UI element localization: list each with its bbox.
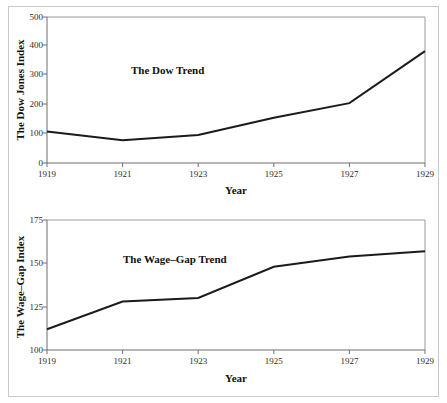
x-tick-label-1921-top: 1921 [114, 169, 132, 179]
wage-gap-trend-line [47, 251, 425, 329]
y-axis-title-bottom: The Wage–Gap Index [14, 235, 26, 338]
x-tick-label-1919-top: 1919 [38, 169, 57, 179]
dow-trend-panel: The Dow Jones Index 500 400 300 200 100 … [0, 0, 447, 202]
wage-gap-trend-panel: The Wage–Gap Index 175 150 125 100 [0, 201, 447, 403]
wage-gap-trend-chart: The Wage–Gap Index 175 150 125 100 [0, 201, 447, 403]
y-tick-label-150: 150 [30, 258, 44, 268]
x-tick-label-1923-bottom: 1923 [189, 356, 208, 366]
wage-gap-trend-annotation: The Wage–Gap Trend [123, 253, 227, 265]
y-tick-marks-top [43, 17, 47, 163]
x-tick-label-1925-top: 1925 [265, 169, 284, 179]
dow-trend-line [47, 51, 425, 140]
x-tick-marks-bottom [47, 350, 425, 354]
x-axis-title-bottom: Year [225, 372, 247, 384]
plot-box-bottom [47, 220, 425, 350]
x-tick-label-1927-top: 1927 [340, 169, 359, 179]
y-tick-label-0: 0 [39, 158, 44, 168]
y-tick-label-125: 125 [30, 302, 44, 312]
y-tick-label-500: 500 [30, 12, 44, 22]
dow-trend-annotation: The Dow Trend [131, 64, 204, 76]
x-axis-title-top: Year [225, 184, 247, 196]
x-tick-label-1919-bottom: 1919 [38, 356, 57, 366]
x-tick-label-1929-bottom: 1929 [416, 356, 435, 366]
y-tick-marks-bottom [43, 220, 47, 350]
y-axis-title-top: The Dow Jones Index [14, 39, 26, 141]
y-tick-label-200: 200 [30, 99, 44, 109]
y-tick-label-100: 100 [30, 128, 44, 138]
x-tick-label-1921-bottom: 1921 [114, 356, 132, 366]
y-tick-label-300: 300 [30, 69, 44, 79]
dow-trend-chart: The Dow Jones Index 500 400 300 200 100 … [0, 0, 447, 202]
x-tick-label-1925-bottom: 1925 [265, 356, 284, 366]
y-tick-label-400: 400 [30, 40, 44, 50]
x-tick-label-1929-top: 1929 [416, 169, 435, 179]
x-tick-label-1923-top: 1923 [189, 169, 208, 179]
y-tick-label-100: 100 [30, 345, 44, 355]
x-tick-marks-top [47, 163, 425, 167]
x-tick-label-1927-bottom: 1927 [340, 356, 359, 366]
y-tick-label-175: 175 [30, 215, 44, 225]
chart-page: The Dow Jones Index 500 400 300 200 100 … [0, 0, 447, 403]
